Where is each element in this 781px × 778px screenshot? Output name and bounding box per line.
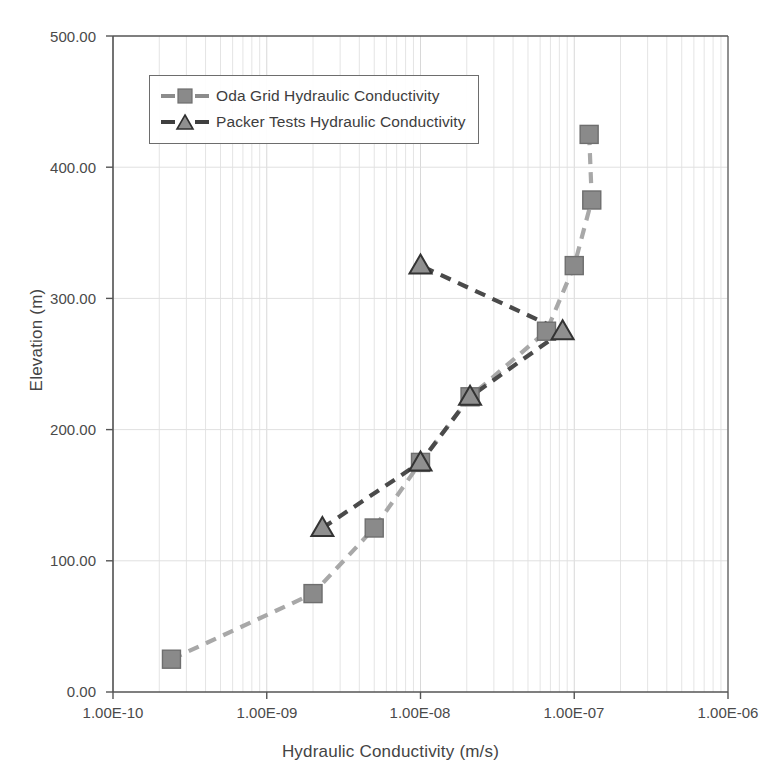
chart-container: Elevation (m) Hydraulic Conductivity (m/… [0,0,781,778]
series-line-square [171,134,591,659]
x-tick-label: 1.00E-08 [360,704,480,721]
data-point-square [162,650,180,668]
legend-label: Packer Tests Hydraulic Conductivity [216,113,466,131]
x-tick-label: 1.00E-06 [668,704,781,721]
data-point-square [583,191,601,209]
legend-item-oda-grid: Oda Grid Hydraulic Conductivity [160,83,466,109]
legend-item-packer-tests: Packer Tests Hydraulic Conductivity [160,109,466,135]
y-axis-title-wrapper: Elevation (m) [27,240,47,440]
x-tick-label: 1.00E-10 [53,704,173,721]
series-line-triangle [322,266,562,528]
data-point-square [304,585,322,603]
y-tick-label: 400.00 [6,159,96,176]
chart-legend: Oda Grid Hydraulic Conductivity Packer T… [149,75,479,144]
legend-square-marker-icon [160,86,210,106]
y-tick-label: 200.00 [6,421,96,438]
x-axis-title: Hydraulic Conductivity (m/s) [0,742,781,762]
data-point-square [580,125,598,143]
y-tick-label: 0.00 [6,683,96,700]
data-point-triangle [311,517,333,536]
data-point-square [565,257,583,275]
legend-label: Oda Grid Hydraulic Conductivity [216,87,440,105]
x-tick-label: 1.00E-09 [207,704,327,721]
data-point-square [365,519,383,537]
y-tick-label: 100.00 [6,552,96,569]
data-point-triangle [410,255,432,274]
legend-triangle-marker-icon [160,112,210,132]
x-tick-label: 1.00E-07 [514,704,634,721]
y-tick-label: 300.00 [6,290,96,307]
y-tick-label: 500.00 [6,28,96,45]
